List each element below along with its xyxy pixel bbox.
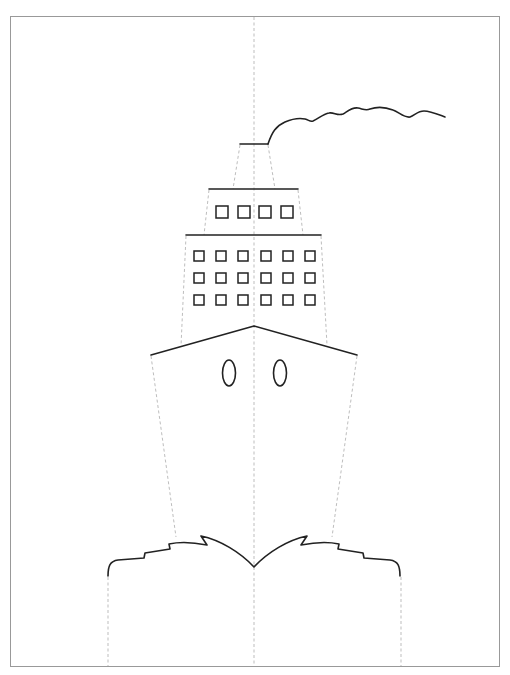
porthole-right	[274, 360, 287, 386]
hull-fold-right	[332, 356, 357, 537]
lower-deck-windows	[194, 251, 315, 305]
porthole-left	[223, 360, 236, 386]
window	[216, 251, 226, 261]
window	[238, 206, 250, 218]
window	[283, 273, 293, 283]
lower-deck-fold-left	[181, 236, 186, 346]
lower-deck-fold-right	[321, 236, 327, 345]
window	[283, 295, 293, 305]
upper-deck-fold-right	[298, 190, 303, 235]
window	[261, 251, 271, 261]
window	[216, 273, 226, 283]
window	[283, 251, 293, 261]
funnel-fold-right	[268, 145, 275, 189]
upper-deck-windows	[216, 206, 293, 218]
upper-deck-fold-left	[204, 190, 209, 235]
window	[305, 295, 315, 305]
page-border	[11, 17, 500, 667]
window	[238, 251, 248, 261]
smoke-plume	[268, 108, 445, 144]
window	[238, 273, 248, 283]
window	[194, 273, 204, 283]
funnel-fold-left	[233, 145, 240, 189]
window	[216, 295, 226, 305]
window	[194, 251, 204, 261]
ship-popup-template	[0, 0, 510, 675]
window	[261, 295, 271, 305]
window	[261, 273, 271, 283]
window	[305, 273, 315, 283]
window	[194, 295, 204, 305]
window	[216, 206, 228, 218]
window	[305, 251, 315, 261]
window	[238, 295, 248, 305]
hull-fold-left	[151, 356, 176, 537]
window	[259, 206, 271, 218]
window	[281, 206, 293, 218]
